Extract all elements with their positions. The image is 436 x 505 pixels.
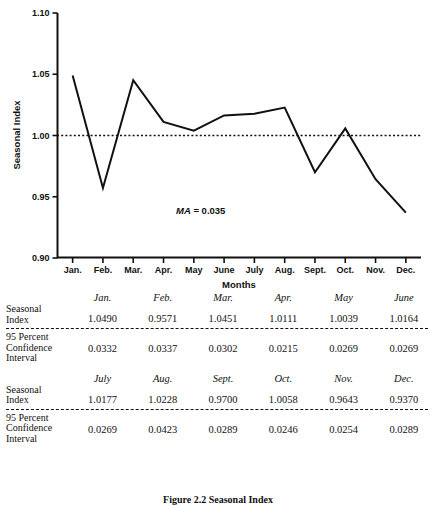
x-tick-label-feb: Feb. xyxy=(94,265,113,275)
row-label-line: Seasonal xyxy=(6,304,72,315)
cell-confidence-interval: 0.0269 xyxy=(374,332,434,364)
cell-seasonal-index: 1.0111 xyxy=(253,303,313,325)
table-row-confidence-interval: 95 Percent Confidence Interval 0.0332 0.… xyxy=(6,332,434,364)
x-tick-label-aug: Aug. xyxy=(275,265,295,275)
table-block-first-half-ci: 95 Percent Confidence Interval 0.0332 0.… xyxy=(6,332,434,364)
y-axis-tick-labels: 1.101.051.000.950.90 xyxy=(32,8,50,263)
cell-seasonal-index: 1.0490 xyxy=(72,303,132,325)
column-header-month: Apr. xyxy=(253,292,313,303)
x-tick-label-dec: Dec. xyxy=(396,265,415,275)
header-spacer xyxy=(6,292,72,303)
cell-seasonal-index: 1.0177 xyxy=(72,384,132,406)
y-tick-label: 1.10 xyxy=(32,8,50,18)
cell-confidence-interval: 0.0289 xyxy=(374,413,434,445)
x-tick-label-july: July xyxy=(245,265,263,275)
cell-seasonal-index: 1.0039 xyxy=(313,303,373,325)
y-axis-title: Seasonal Index xyxy=(11,100,22,170)
row-label-line: Interval xyxy=(6,353,72,364)
row-label-line: Confidence xyxy=(6,423,72,434)
x-tick-label-sept: Sept. xyxy=(304,265,326,275)
column-header-month: Sept. xyxy=(193,373,253,384)
table-header-row: July Aug. Sept. Oct. Nov. Dec. xyxy=(6,373,434,384)
figure-caption: Figure 2.2 Seasonal Index xyxy=(0,494,436,505)
cell-seasonal-index: 1.0228 xyxy=(133,384,193,406)
row-label-line: Interval xyxy=(6,434,72,445)
table-row-confidence-interval: 95 Percent Confidence Interval 0.0269 0.… xyxy=(6,413,434,445)
x-tick-label-mar: Mar. xyxy=(124,265,142,275)
row-label-line: 95 Percent xyxy=(6,332,72,343)
cell-confidence-interval: 0.0215 xyxy=(253,332,313,364)
cell-seasonal-index: 1.0451 xyxy=(193,303,253,325)
cell-confidence-interval: 0.0337 xyxy=(133,332,193,364)
table-block-first-half: Jan. Feb. Mar. Apr. May June Seasonal In… xyxy=(6,292,434,325)
row-label-line: Index xyxy=(6,395,72,406)
ma-annotation: MA = 0.035 xyxy=(176,205,226,216)
x-tick-label-may: May xyxy=(185,265,203,275)
y-tick-label: 1.00 xyxy=(32,131,50,141)
ma-annotation-value: = 0.035 xyxy=(191,205,226,216)
table-block-second-half: July Aug. Sept. Oct. Nov. Dec. Seasonal … xyxy=(6,373,434,406)
column-header-month: May xyxy=(313,292,373,303)
cell-confidence-interval: 0.0246 xyxy=(253,413,313,445)
column-header-month: July xyxy=(72,373,132,384)
table-block-second-half-ci: 95 Percent Confidence Interval 0.0269 0.… xyxy=(6,413,434,445)
table-divider-dashed xyxy=(6,409,428,410)
table-block-gap xyxy=(0,364,436,373)
x-axis-title: Months xyxy=(222,279,256,290)
x-tick-label-oct: Oct. xyxy=(337,265,355,275)
cell-confidence-interval: 0.0269 xyxy=(313,332,373,364)
x-tick-label-apr: Apr. xyxy=(155,265,173,275)
cell-confidence-interval: 0.0423 xyxy=(133,413,193,445)
y-tick-label: 1.05 xyxy=(32,69,50,79)
x-axis-ticks xyxy=(73,258,406,263)
column-header-month: Oct. xyxy=(253,373,313,384)
x-tick-label-nov: Nov. xyxy=(366,265,385,275)
column-header-month: Dec. xyxy=(374,373,434,384)
cell-seasonal-index: 0.9571 xyxy=(133,303,193,325)
table-row-seasonal-index: Seasonal Index 1.0177 1.0228 0.9700 1.00… xyxy=(6,384,434,406)
header-spacer xyxy=(6,373,72,384)
ma-annotation-symbol: MA xyxy=(176,205,191,216)
cell-seasonal-index: 0.9370 xyxy=(374,384,434,406)
cell-seasonal-index: 1.0164 xyxy=(374,303,434,325)
table-header-row: Jan. Feb. Mar. Apr. May June xyxy=(6,292,434,303)
row-label-confidence-interval: 95 Percent Confidence Interval xyxy=(6,332,72,364)
column-header-month: Feb. xyxy=(133,292,193,303)
column-header-month: Mar. xyxy=(193,292,253,303)
cell-seasonal-index: 0.9700 xyxy=(193,384,253,406)
y-tick-label: 0.95 xyxy=(32,192,50,202)
cell-seasonal-index: 0.9643 xyxy=(313,384,373,406)
cell-confidence-interval: 0.0289 xyxy=(193,413,253,445)
cell-confidence-interval: 0.0254 xyxy=(313,413,373,445)
column-header-month: Aug. xyxy=(133,373,193,384)
x-axis-tick-labels: Jan.Feb.Mar.Apr.MayJuneJulyAug.Sept.Oct.… xyxy=(64,265,416,275)
column-header-month: June xyxy=(374,292,434,303)
row-label-seasonal-index: Seasonal Index xyxy=(6,303,72,325)
chart-plot-area: Seasonal Index Months MA = 0.035 1.101.0… xyxy=(0,0,436,292)
cell-confidence-interval: 0.0332 xyxy=(72,332,132,364)
cell-confidence-interval: 0.0269 xyxy=(72,413,132,445)
seasonal-index-chart: Seasonal Index Months MA = 0.035 1.101.0… xyxy=(0,0,436,292)
x-tick-label-jan: Jan. xyxy=(64,265,82,275)
cell-confidence-interval: 0.0302 xyxy=(193,332,253,364)
column-header-month: Jan. xyxy=(72,292,132,303)
table-divider-dashed xyxy=(6,328,428,329)
row-label-line: Index xyxy=(6,315,72,326)
row-label-confidence-interval: 95 Percent Confidence Interval xyxy=(6,413,72,445)
cell-seasonal-index: 1.0058 xyxy=(253,384,313,406)
y-tick-label: 0.90 xyxy=(32,253,50,263)
seasonal-index-series xyxy=(73,75,406,212)
column-header-month: Nov. xyxy=(313,373,373,384)
seasonal-index-table: Jan. Feb. Mar. Apr. May June Seasonal In… xyxy=(0,292,436,503)
row-label-seasonal-index: Seasonal Index xyxy=(6,384,72,406)
table-row-seasonal-index: Seasonal Index 1.0490 0.9571 1.0451 1.01… xyxy=(6,303,434,325)
x-tick-label-june: June xyxy=(214,265,235,275)
